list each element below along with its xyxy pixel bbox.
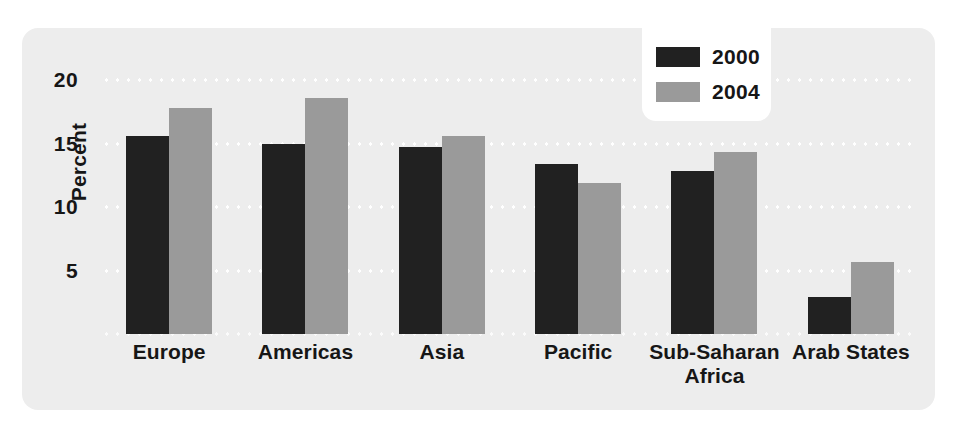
bar-2000[interactable] — [126, 136, 169, 334]
x-axis-label: Arab States — [783, 340, 919, 387]
x-axis-label-line: Americas — [237, 340, 373, 364]
x-axis-label: Asia — [374, 340, 510, 387]
y-axis-ticks: 2015105 — [24, 80, 78, 334]
bar-pair — [126, 80, 212, 334]
bar-2000[interactable] — [535, 164, 578, 334]
chart-legend: 20002004 — [642, 28, 771, 121]
x-axis-label: Sub-SaharanAfrica — [646, 340, 782, 387]
x-axis-labels: EuropeAmericasAsiaPacificSub-SaharanAfri… — [101, 340, 919, 387]
x-axis-label-line: Sub-Saharan — [646, 340, 782, 364]
x-axis-label: Pacific — [510, 340, 646, 387]
bar-2004[interactable] — [169, 108, 212, 334]
legend-item[interactable]: 2004 — [656, 80, 771, 104]
bar-2004[interactable] — [851, 262, 894, 334]
y-axis-tick-label: 20 — [24, 68, 78, 92]
legend-swatch-icon — [656, 47, 700, 67]
bar-2004[interactable] — [305, 98, 348, 334]
bar-pair — [399, 80, 485, 334]
bar-2004[interactable] — [442, 136, 485, 334]
bar-2000[interactable] — [399, 147, 442, 334]
bar-2000[interactable] — [808, 297, 851, 334]
x-axis-label-line: Africa — [646, 364, 782, 388]
legend-item[interactable]: 2000 — [656, 45, 771, 69]
chart-figure: Percent 2015105 EuropeAmericasAsiaPacifi… — [0, 0, 957, 428]
bar-pair — [535, 80, 621, 334]
bar-group — [374, 80, 510, 334]
bar-pair — [262, 80, 348, 334]
bar-group — [510, 80, 646, 334]
bar-group — [101, 80, 237, 334]
plot-area — [101, 80, 919, 334]
bar-2004[interactable] — [714, 152, 757, 334]
bar-2004[interactable] — [578, 183, 621, 334]
bar-group — [237, 80, 373, 334]
bar-group — [783, 80, 919, 334]
x-axis-label: Americas — [237, 340, 373, 387]
bar-pair — [808, 80, 894, 334]
x-axis-label-line: Europe — [101, 340, 237, 364]
legend-swatch-icon — [656, 82, 700, 102]
bar-2000[interactable] — [262, 144, 305, 335]
x-axis-label-line: Pacific — [510, 340, 646, 364]
y-axis-tick-label: 5 — [24, 259, 78, 283]
y-axis-tick-label: 10 — [24, 195, 78, 219]
bar-2000[interactable] — [671, 171, 714, 334]
legend-label: 2000 — [712, 45, 760, 69]
x-axis-label: Europe — [101, 340, 237, 387]
x-axis-label-line: Asia — [374, 340, 510, 364]
x-axis-label-line: Arab States — [783, 340, 919, 364]
y-axis-tick-label: 15 — [24, 132, 78, 156]
bar-groups — [101, 80, 919, 334]
legend-label: 2004 — [712, 80, 760, 104]
